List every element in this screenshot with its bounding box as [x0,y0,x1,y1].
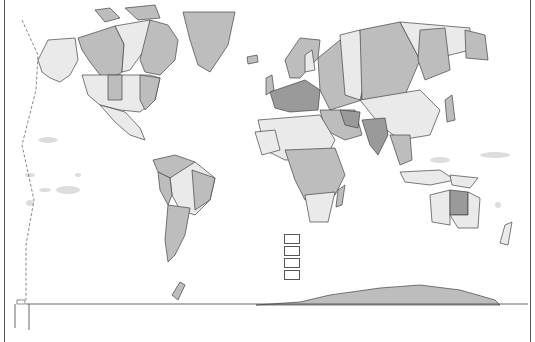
world-map [0,0,535,342]
west-africa [255,130,280,155]
africa-central [285,148,345,200]
antarctica [256,285,500,305]
south-america [153,155,215,300]
north-america [38,5,235,140]
legend-item-odd [284,233,304,245]
legend-swatch-fraction [284,258,300,268]
australia-central [450,190,468,215]
greenland [183,12,235,72]
australia-west [430,190,450,225]
southeast-asia [390,135,412,165]
africa-south [305,192,335,222]
japan [445,95,455,122]
legend-item-even [284,245,304,257]
usa-east [140,75,160,110]
new-guinea [450,175,478,188]
russia-magadan [465,30,488,60]
arctic-islands [95,5,160,22]
canada-west [78,26,124,78]
legend-swatch-odd [284,234,300,244]
legend-item-solar [284,269,304,281]
date-line [22,20,38,300]
legend-item-fraction [284,257,304,269]
argentina [165,205,190,262]
scandinavia [285,38,320,78]
legend-swatch-even [284,246,300,256]
new-zealand [500,222,512,245]
india [362,118,388,155]
russia-yakutsk [418,28,450,80]
legend [284,233,304,281]
europe [270,80,320,112]
antarctic-peninsula [172,282,185,300]
legend-swatch-solar [284,270,300,280]
usa-mountain [108,75,122,100]
indonesia [400,170,455,185]
dateline-box [17,300,25,304]
alaska [38,38,78,82]
iceland [247,55,258,64]
